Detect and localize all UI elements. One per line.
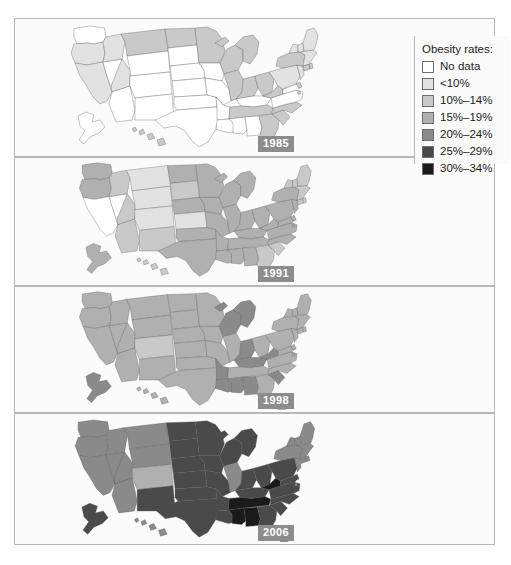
year-label-1991: 1991 <box>258 266 294 282</box>
state-VT <box>284 309 292 317</box>
state-KS <box>174 341 207 359</box>
legend-row-15-19: 15%–19% <box>422 111 492 124</box>
state-HI <box>143 259 149 265</box>
legend-swatch-no-data <box>422 61 434 73</box>
legend-label-25-29: 25%–29% <box>440 145 492 158</box>
state-HI <box>159 528 168 536</box>
state-AL <box>245 116 262 136</box>
legend-title: Obesity rates: <box>422 43 493 55</box>
legend-row-no-data: No data <box>422 60 480 73</box>
legend-swatch-15-19 <box>422 112 434 124</box>
state-NE <box>170 63 205 81</box>
state-ID <box>103 34 125 62</box>
state-HI <box>139 129 145 135</box>
map-panel-1998: 1998 <box>15 286 494 412</box>
state-OR <box>79 307 111 329</box>
state-ND <box>166 422 197 441</box>
state-ND <box>168 165 198 184</box>
state-HI <box>137 258 142 263</box>
state-KS <box>173 470 207 488</box>
map-panel-1991: 1991 <box>15 157 494 285</box>
state-VT <box>289 44 298 53</box>
state-SD <box>168 45 199 66</box>
state-AK <box>86 372 111 402</box>
figure-page: 1985 1991 1998 2006 Obesity rates: <box>0 0 511 565</box>
state-ID <box>106 428 127 455</box>
state-NY <box>272 187 299 202</box>
legend: Obesity rates: No data <10% 10%–14% 15%–… <box>414 36 510 164</box>
map-1998 <box>15 287 494 412</box>
state-AL <box>244 507 260 526</box>
state-HI <box>132 127 137 132</box>
state-NE <box>172 197 205 214</box>
state-HI <box>147 133 155 140</box>
state-KS <box>174 212 207 230</box>
map-panel-2006: 2006 <box>15 413 494 545</box>
figure-frame: 1985 1991 1998 2006 Obesity rates: <box>14 18 495 545</box>
state-NY <box>276 52 305 68</box>
state-WA <box>78 420 109 437</box>
state-HI <box>157 138 166 146</box>
state-HI <box>149 524 157 531</box>
state-ME <box>303 28 318 51</box>
state-HI <box>141 520 147 526</box>
state-OR <box>75 435 108 457</box>
state-WA <box>82 292 112 309</box>
legend-row-10-14: 10%–14% <box>422 94 492 107</box>
state-ME <box>297 294 311 316</box>
state-HI <box>137 387 142 392</box>
state-VT <box>286 437 295 446</box>
legend-label-30-34: 30%–34% <box>440 162 492 175</box>
state-OR <box>79 178 111 200</box>
legend-row-25-29: 25%–29% <box>422 145 492 158</box>
state-NY <box>274 445 302 461</box>
state-VT <box>284 180 292 188</box>
state-AK <box>82 503 108 534</box>
state-HI <box>160 268 168 276</box>
legend-label-10-14: 10%–14% <box>440 94 492 107</box>
state-HI <box>160 397 168 405</box>
legend-row-20-24: 20%–24% <box>422 128 492 141</box>
state-AK <box>86 243 111 273</box>
state-NY <box>272 316 299 331</box>
state-ND <box>168 294 198 313</box>
state-ND <box>165 28 197 48</box>
legend-row-30-34: 30%–34% <box>422 162 492 175</box>
state-ID <box>109 299 130 325</box>
state-HI <box>151 263 159 270</box>
legend-row-lt10: <10% <box>422 77 470 90</box>
year-label-1998: 1998 <box>258 393 294 409</box>
state-NE <box>171 456 205 473</box>
state-CO <box>132 464 173 489</box>
state-OR <box>71 42 105 65</box>
state-AK <box>78 112 105 144</box>
state-WA <box>74 26 106 44</box>
state-AL <box>243 247 259 266</box>
legend-label-no-data: No data <box>440 60 480 73</box>
map-2006 <box>15 414 494 545</box>
state-AL <box>243 376 259 395</box>
map-1991 <box>15 158 494 285</box>
state-ME <box>300 422 315 444</box>
legend-label-20-24: 20%–24% <box>440 128 492 141</box>
legend-label-lt10: <10% <box>440 77 470 90</box>
state-CO <box>135 206 174 230</box>
legend-swatch-lt10 <box>422 78 434 90</box>
year-label-2006: 2006 <box>258 525 294 541</box>
state-HI <box>151 392 159 399</box>
legend-swatch-25-29 <box>422 146 434 158</box>
state-SD <box>170 181 199 201</box>
legend-swatch-10-14 <box>422 95 434 107</box>
state-CO <box>135 335 174 359</box>
state-SD <box>170 310 199 330</box>
state-ID <box>109 170 130 196</box>
state-CO <box>130 72 172 98</box>
state-HI <box>143 388 149 394</box>
state-NE <box>172 326 205 343</box>
legend-swatch-20-24 <box>422 129 434 141</box>
state-ME <box>297 165 311 187</box>
state-KS <box>172 78 207 97</box>
state-SD <box>169 438 199 458</box>
state-WA <box>82 163 112 180</box>
legend-swatch-30-34 <box>422 163 434 175</box>
